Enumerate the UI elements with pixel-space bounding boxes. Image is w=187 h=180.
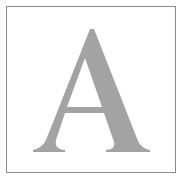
letter-a-glyph: A [0,0,187,180]
letter-a-shape [33,29,150,152]
